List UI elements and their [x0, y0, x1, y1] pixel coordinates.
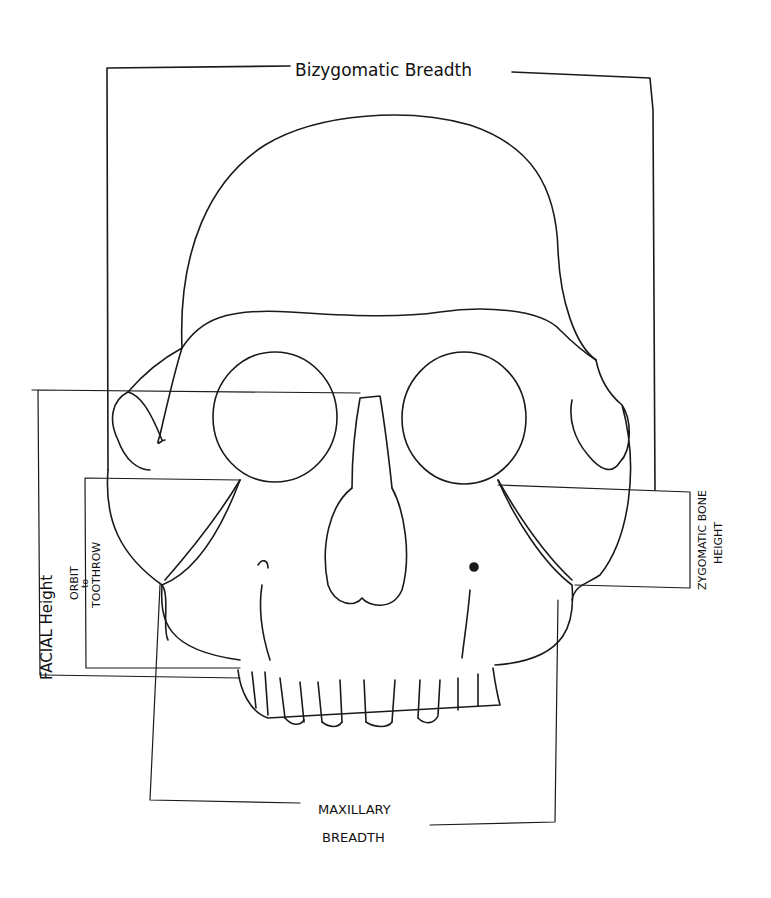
cranial-vault-outline [182, 115, 596, 360]
maxillary-label: MAXILLARY [318, 802, 391, 817]
upper-toothrow [238, 668, 500, 727]
breadth-label: BREADTH [322, 830, 385, 845]
right-orbit [402, 352, 526, 484]
zygomatic-bone-height-label: ZYGOMATIC BONE HEIGHT [696, 490, 725, 590]
svg-text:to: to [80, 578, 90, 588]
facial-height-bracket [32, 390, 360, 678]
skull-diagram: Bizygomatic Breadth FACIAL Height ORBIT … [0, 0, 771, 898]
brow-ridge-outline [182, 309, 596, 360]
zygomatic-height-bracket [498, 485, 690, 588]
facial-height-label: FACIAL Height [38, 575, 56, 680]
right-canine-ridge [462, 590, 470, 658]
left-canine-ridge [260, 585, 270, 660]
svg-text:ZYGOMATIC BONE: ZYGOMATIC BONE [696, 490, 709, 590]
bizygomatic-breadth-label: Bizygomatic Breadth [295, 60, 472, 80]
svg-text:HEIGHT: HEIGHT [712, 522, 725, 564]
right-zygomatic-outline [571, 360, 631, 600]
left-orbit [213, 352, 337, 482]
maxilla-outline [162, 480, 573, 665]
nasal-bridge [352, 396, 392, 488]
svg-text:TOOTHROW: TOOTHROW [90, 542, 103, 609]
nasal-aperture [325, 488, 406, 605]
